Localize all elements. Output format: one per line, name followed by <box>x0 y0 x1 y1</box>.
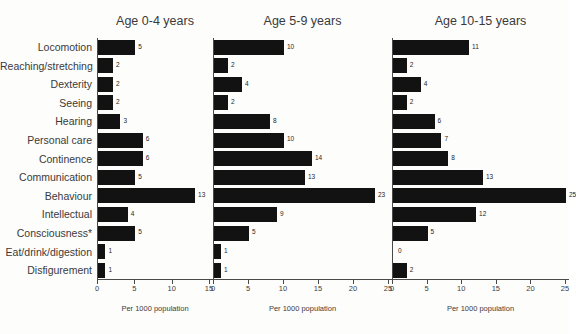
bar <box>393 263 407 278</box>
x-axis-ticks: 0510152025 <box>392 280 569 298</box>
cut-off-title <box>0 0 569 12</box>
bar-row: 6 <box>392 112 569 131</box>
panel-age-10-15: Age 10-15 years1124267813251250205101520… <box>392 14 569 326</box>
bar-row: 4 <box>213 75 392 94</box>
bar-value-label: 13 <box>198 191 205 198</box>
bar <box>214 77 242 92</box>
plot-area: 112426781325125020510152025 <box>392 38 569 280</box>
bar-value-label: 8 <box>451 154 455 161</box>
bar <box>98 40 135 55</box>
category-label: Personal care <box>0 131 97 150</box>
bar-row: 9 <box>213 205 392 224</box>
bar-row: 2 <box>97 57 213 76</box>
x-tick-label: 10 <box>167 284 175 293</box>
bar-value-label: 2 <box>410 266 414 273</box>
bar-value-label: 4 <box>424 80 428 87</box>
bar-value-label: 5 <box>252 228 256 235</box>
bar-row: 13 <box>213 168 392 187</box>
bar-row: 10 <box>213 38 392 57</box>
bar <box>393 77 421 92</box>
bar-row: 1 <box>97 243 213 262</box>
bar <box>214 226 249 241</box>
bar-row: 13 <box>97 187 213 206</box>
bar <box>214 263 221 278</box>
category-label: Disfigurement <box>0 261 97 280</box>
bar-value-label: 1 <box>108 266 112 273</box>
category-axis-labels: LocomotionReaching/stretchingDexteritySe… <box>0 38 97 280</box>
bar-value-label: 4 <box>131 210 135 217</box>
bar-row: 5 <box>213 224 392 243</box>
bar <box>98 188 195 203</box>
x-tick-label: 10 <box>457 284 465 293</box>
panel-title: Age 10-15 years <box>392 14 569 28</box>
bar-value-label: 2 <box>116 61 120 68</box>
x-tick-label: 0 <box>390 284 394 293</box>
bar-row: 0 <box>392 243 569 262</box>
bar <box>214 40 284 55</box>
bar-value-label: 10 <box>287 43 294 50</box>
x-axis-ticks: 051015 <box>97 280 213 298</box>
bar <box>98 263 105 278</box>
bar-value-label: 5 <box>138 228 142 235</box>
x-tick-label: 5 <box>132 284 136 293</box>
bar <box>98 207 128 222</box>
bar <box>214 95 228 110</box>
bar-row: 10 <box>213 131 392 150</box>
bar-row: 11 <box>392 38 569 57</box>
bar-value-label: 25 <box>569 191 576 198</box>
panel-age-0-4: Age 0-4 years52223665134511051015Per 100… <box>97 14 213 326</box>
bar <box>214 133 284 148</box>
bar-row: 13 <box>392 168 569 187</box>
bar-value-label: 11 <box>472 43 479 50</box>
category-label: Continence <box>0 150 97 169</box>
bar-row: 4 <box>97 205 213 224</box>
x-axis-title: Per 1000 population <box>213 304 392 313</box>
bar-row: 5 <box>97 224 213 243</box>
bar-row: 14 <box>213 150 392 169</box>
bar-value-label: 10 <box>287 135 294 142</box>
panel-title: Age 5-9 years <box>213 14 392 28</box>
bar <box>214 207 277 222</box>
bar-value-label: 6 <box>146 154 150 161</box>
bar-value-label: 0 <box>398 247 402 254</box>
bar-row: 12 <box>392 205 569 224</box>
bar-row: 2 <box>97 75 213 94</box>
bar <box>98 114 120 129</box>
x-tick-label: 5 <box>246 284 250 293</box>
bar <box>98 95 113 110</box>
bar-row: 8 <box>213 112 392 131</box>
x-tick-label: 5 <box>425 284 429 293</box>
category-label: Seeing <box>0 94 97 113</box>
bar-row: 7 <box>392 131 569 150</box>
bar-row: 3 <box>97 112 213 131</box>
bar <box>98 58 113 73</box>
x-tick-label: 15 <box>492 284 500 293</box>
bar-row: 25 <box>392 187 569 206</box>
x-tick-label: 25 <box>561 284 569 293</box>
bar <box>214 114 270 129</box>
bar-value-label: 2 <box>231 61 235 68</box>
x-tick-label: 15 <box>314 284 322 293</box>
bar-value-label: 6 <box>146 135 150 142</box>
bar-row: 1 <box>213 261 392 280</box>
category-label: Communication <box>0 168 97 187</box>
bar-row: 1 <box>97 261 213 280</box>
x-axis-title: Per 1000 population <box>97 304 213 313</box>
x-tick-label: 0 <box>95 284 99 293</box>
bar-row: 5 <box>97 38 213 57</box>
category-label: Dexterity <box>0 75 97 94</box>
x-tick-label: 20 <box>526 284 534 293</box>
bar-value-label: 3 <box>123 117 127 124</box>
bar <box>214 244 221 259</box>
bar <box>393 40 469 55</box>
panel-age-5-9: Age 5-9 years102428101413239511051015202… <box>213 14 392 326</box>
bar-value-label: 2 <box>231 98 235 105</box>
category-label: Behaviour <box>0 187 97 206</box>
plot-area: 52223665134511051015 <box>97 38 213 280</box>
bar <box>393 114 435 129</box>
bar-row: 23 <box>213 187 392 206</box>
category-label: Hearing <box>0 112 97 131</box>
bar-value-label: 5 <box>431 228 435 235</box>
bar-value-label: 13 <box>308 173 315 180</box>
